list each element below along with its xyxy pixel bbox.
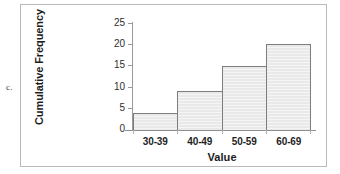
- x-tick-mark-4: [310, 130, 311, 134]
- x-tick-mark-2: [222, 130, 223, 134]
- y-tick-label-5: 5: [103, 103, 125, 113]
- x-tick-label-30-39: 30-39: [133, 136, 178, 147]
- y-tick-label-25: 25: [103, 18, 125, 28]
- y-axis-title: Cumulative Frequency: [33, 5, 45, 129]
- x-tick-label-60-69: 60-69: [267, 136, 312, 147]
- screenshot-root: c. Cumulative Frequency 25 20 15 10 5 0: [0, 0, 340, 174]
- x-axis-tick-labels: 30-39 40-49 50-59 60-69: [133, 136, 311, 147]
- bar-50-59: [222, 66, 267, 130]
- x-tick-label-50-59: 50-59: [222, 136, 267, 147]
- x-tick-mark-0: [133, 130, 134, 134]
- x-tick-label-40-49: 40-49: [178, 136, 223, 147]
- bar-30-39: [133, 113, 178, 130]
- y-axis-tick-labels: 25 20 15 10 5 0: [101, 5, 125, 174]
- x-axis-line: [125, 130, 316, 131]
- bar-40-49: [177, 91, 222, 130]
- x-tick-mark-3: [266, 130, 267, 134]
- chart-panel: Cumulative Frequency 25 20 15 10 5 0: [20, 4, 327, 167]
- y-tick-label-15: 15: [103, 60, 125, 70]
- y-tick-label-20: 20: [103, 39, 125, 49]
- y-tick-label-10: 10: [103, 82, 125, 92]
- y-tick-label-0: 0: [103, 124, 125, 134]
- choice-letter: c.: [6, 82, 13, 92]
- x-axis-title: Value: [133, 151, 311, 163]
- x-tick-mark-1: [177, 130, 178, 134]
- bar-series: [133, 23, 311, 130]
- bar-60-69: [266, 44, 311, 130]
